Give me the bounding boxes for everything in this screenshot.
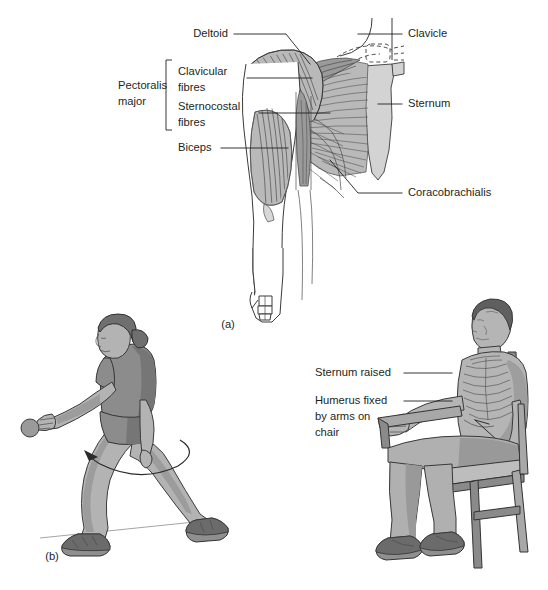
label-humerus-fixed-line2: by arms on [315, 410, 370, 422]
label-humerus-fixed-line1: Humerus fixed [315, 394, 387, 406]
label-pectoralis-major-line2: major [118, 95, 146, 107]
label-clavicle: Clavicle [408, 27, 447, 39]
anatomy-figure: Deltoid Clavicular fibres Sternocostal f… [0, 0, 548, 590]
label-biceps: Biceps [178, 141, 212, 153]
panel-label-b: (b) [45, 550, 59, 562]
label-sternocostal-fibres-line2: fibres [178, 116, 206, 128]
label-sternum-raised: Sternum raised [315, 366, 391, 378]
label-sternocostal-fibres-line1: Sternocostal [178, 100, 240, 112]
ball [21, 419, 39, 437]
label-sternum: Sternum [408, 97, 450, 109]
label-clavicular-fibres-line2: fibres [178, 81, 206, 93]
forearm-hand [250, 248, 283, 322]
panel-label-a: (a) [221, 318, 235, 330]
figure-canvas: Deltoid Clavicular fibres Sternocostal f… [0, 0, 548, 590]
label-pectoralis-major-line1: Pectoralis [118, 79, 168, 91]
label-coracobrachialis: Coracobrachialis [408, 186, 492, 198]
label-humerus-fixed-line3: chair [315, 426, 340, 438]
label-deltoid: Deltoid [193, 27, 228, 39]
label-clavicular-fibres-line1: Clavicular [178, 65, 227, 77]
